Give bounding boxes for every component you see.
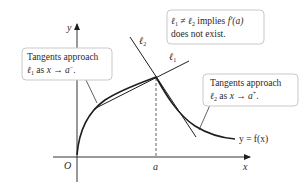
tangent-diagram: y x O a ℓ2 ℓ1 y = f(x) ℓ1 ≠ ℓ2 implies f… [0, 0, 307, 187]
callout-top-line2: does not exist. [171, 29, 226, 39]
leader-line-left [86, 80, 97, 103]
callout-left-line1: Tangents approach [27, 52, 99, 62]
y-axis-label: y [66, 22, 72, 33]
callout-left-line2: ℓ1 as x → a−. [27, 64, 76, 76]
l2-label: ℓ2 [139, 35, 146, 47]
callout-right-line2: ℓ2 as x → a+. [210, 90, 259, 102]
tick-label-a: a [153, 161, 158, 172]
leader-line-right [199, 105, 210, 130]
x-axis-label: x [242, 161, 248, 172]
tangent-line-l2 [130, 37, 196, 137]
origin-label: O [64, 160, 71, 171]
callout-right-line1: Tangents approach [210, 78, 282, 88]
curve-label: y = f(x) [239, 134, 268, 145]
callout-top-line1: ℓ1 ≠ ℓ2 implies f′(a) [171, 16, 243, 27]
l1-label: ℓ1 [169, 51, 176, 63]
